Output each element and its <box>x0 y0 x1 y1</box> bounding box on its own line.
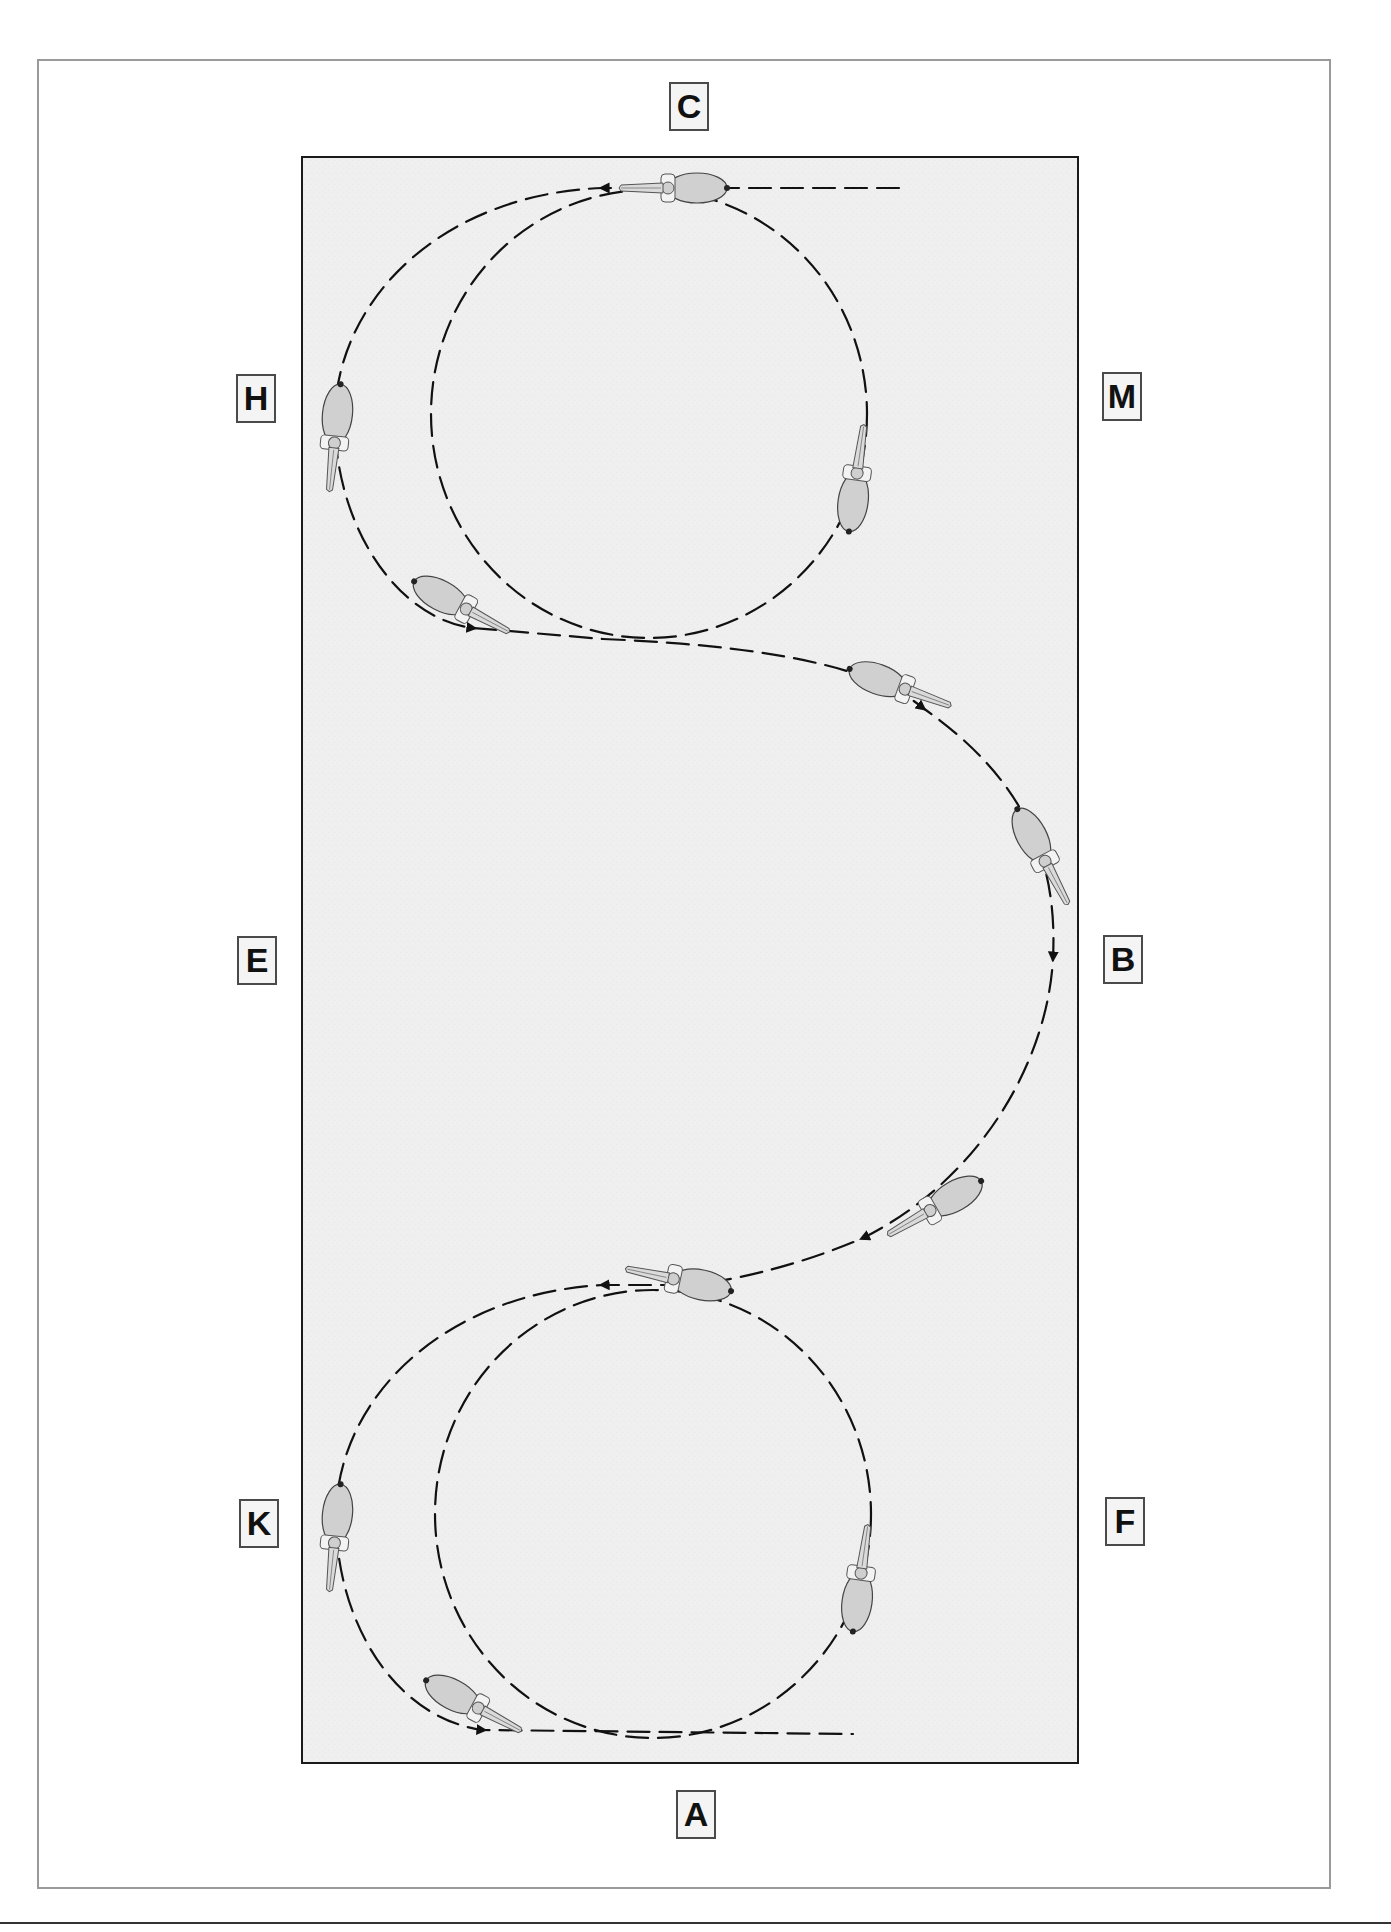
bottom-rule <box>0 1922 1391 1924</box>
marker-e: E <box>237 936 277 985</box>
marker-k: K <box>239 1499 279 1548</box>
marker-m: M <box>1102 372 1142 421</box>
marker-b: B <box>1103 935 1143 984</box>
marker-c: C <box>669 82 709 131</box>
marker-f: F <box>1105 1497 1145 1546</box>
marker-a: A <box>676 1790 716 1839</box>
marker-h: H <box>236 374 276 423</box>
track-paths <box>303 158 1079 1764</box>
arena <box>301 156 1079 1764</box>
